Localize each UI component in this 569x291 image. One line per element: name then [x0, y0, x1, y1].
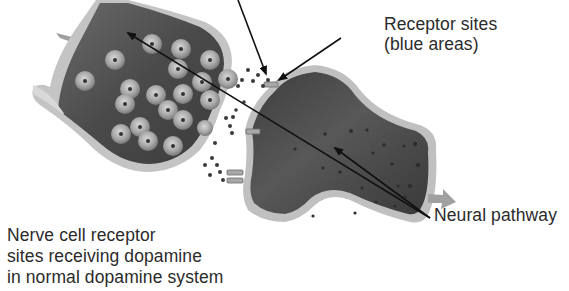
- synapse-diagram: Receptor sites (blue areas) Neural pathw…: [0, 0, 569, 291]
- caption-line3: in normal dopamine system: [7, 267, 223, 288]
- caption-line2: sites receiving dopamine: [7, 246, 223, 267]
- diagram-caption: Nerve cell receptor sites receiving dopa…: [7, 225, 223, 288]
- caption-line1: Nerve cell receptor: [7, 225, 223, 246]
- receptor-sites-label-line2: (blue areas): [384, 34, 497, 54]
- postsynaptic-neuron: [243, 65, 436, 223]
- receptor-sites-label-line1: Receptor sites: [384, 14, 497, 34]
- neural-pathway-label: Neural pathway: [434, 205, 557, 225]
- receptor-sites-label: Receptor sites (blue areas): [384, 14, 497, 54]
